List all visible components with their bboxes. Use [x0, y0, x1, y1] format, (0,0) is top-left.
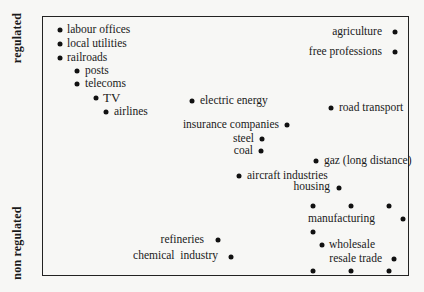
- axis-label-regulated: regulated: [10, 13, 25, 63]
- point-dot: [387, 204, 392, 209]
- point-label-housing: housing: [294, 181, 330, 193]
- point-dot: [311, 269, 316, 274]
- point-dot-coal: [259, 149, 264, 154]
- point-dot-steel: [260, 137, 265, 142]
- point-label-agriculture: agriculture: [332, 26, 382, 38]
- point-dot: [311, 204, 316, 209]
- point-label-coal: coal: [234, 145, 253, 157]
- point-label-airlines: airlines: [114, 106, 148, 118]
- point-label-refineries: refineries: [161, 234, 204, 246]
- point-label-chemical-industry: chemical industry: [133, 250, 218, 261]
- point-dot-gaz: [314, 159, 319, 164]
- point-dot-local-utilities: [58, 42, 63, 47]
- point-dot-housing: [337, 186, 342, 191]
- point-dot-airlines: [104, 110, 109, 115]
- point-label-steel: steel: [233, 133, 254, 145]
- point-label-manufacturing: manufacturing: [308, 213, 375, 225]
- point-dot-agriculture: [393, 30, 398, 35]
- point-dot-manufacturing: [401, 217, 406, 222]
- point-dot-resale-trade: [392, 257, 397, 262]
- point-label-posts: posts: [85, 65, 109, 77]
- point-dot: [387, 269, 392, 274]
- point-dot-labour-offices: [58, 28, 63, 33]
- axis-label-non-regulated: non regulated: [10, 206, 25, 279]
- point-dot-railroads: [58, 56, 63, 61]
- point-dot-insurance-companies: [285, 123, 290, 128]
- point-dot: [311, 230, 316, 235]
- point-label-labour-offices: labour offices: [67, 24, 130, 36]
- point-dot-posts: [75, 69, 80, 74]
- point-label-free-professions: free professions: [309, 46, 382, 58]
- point-label-electric-energy: electric energy: [200, 95, 268, 107]
- point-label-insurance-companies: insurance companies: [183, 119, 279, 131]
- point-label-tv: TV: [103, 91, 120, 104]
- point-label-telecoms: telecoms: [85, 78, 126, 90]
- point-dot-chemical-industry: [229, 255, 234, 260]
- point-dot-electric-energy: [190, 99, 195, 104]
- point-dot-wholesale: [320, 243, 325, 248]
- point-label-railroads: railroads: [67, 52, 107, 64]
- point-label-resale-trade: resale trade: [329, 253, 382, 264]
- point-dot-telecoms: [75, 82, 80, 87]
- point-label-road-transport: road transport: [339, 102, 403, 114]
- point-label-local-utilities: local utilities: [67, 38, 127, 50]
- point-dot: [349, 204, 354, 209]
- point-dot-road-transport: [329, 106, 334, 111]
- point-dot-tv: [94, 96, 99, 101]
- point-dot: [349, 269, 354, 274]
- point-label-gaz: gaz (long distance): [324, 155, 412, 167]
- point-dot-aircraft-industries: [237, 174, 242, 179]
- point-dot-free-professions: [393, 50, 398, 55]
- point-label-wholesale: wholesale: [329, 239, 375, 251]
- point-dot-refineries: [216, 238, 221, 243]
